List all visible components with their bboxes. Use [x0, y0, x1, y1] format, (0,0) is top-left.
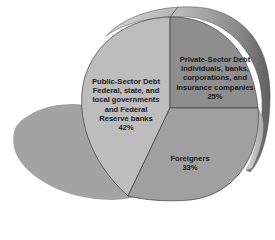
label-public-sector-title: Public-Sector Debt	[83, 77, 169, 86]
label-public-sector-line-2: local governments	[83, 95, 169, 104]
label-public-sector-line-1: Federal, state, and	[83, 86, 169, 95]
label-public-sector-line-4: Reserve banks	[83, 114, 169, 123]
label-private-sector-value: 25%	[170, 92, 260, 101]
label-foreigners-value: 33%	[160, 163, 220, 172]
label-public-sector: Public-Sector Debt Federal, state, and l…	[83, 77, 169, 132]
label-private-sector-line-2: corporations, and	[170, 73, 260, 82]
label-foreigners: Foreigners 33%	[160, 154, 220, 172]
label-private-sector-line-1: Individuals, banks,	[170, 64, 260, 73]
label-public-sector-value: 42%	[83, 123, 169, 132]
label-foreigners-title: Foreigners	[160, 154, 220, 163]
label-private-sector-title: Private-Sector Debt	[170, 55, 260, 64]
label-public-sector-line-3: and Federal	[83, 105, 169, 114]
label-private-sector: Private-Sector Debt Individuals, banks, …	[170, 55, 260, 101]
label-private-sector-line-3: insurance companies	[170, 83, 260, 92]
